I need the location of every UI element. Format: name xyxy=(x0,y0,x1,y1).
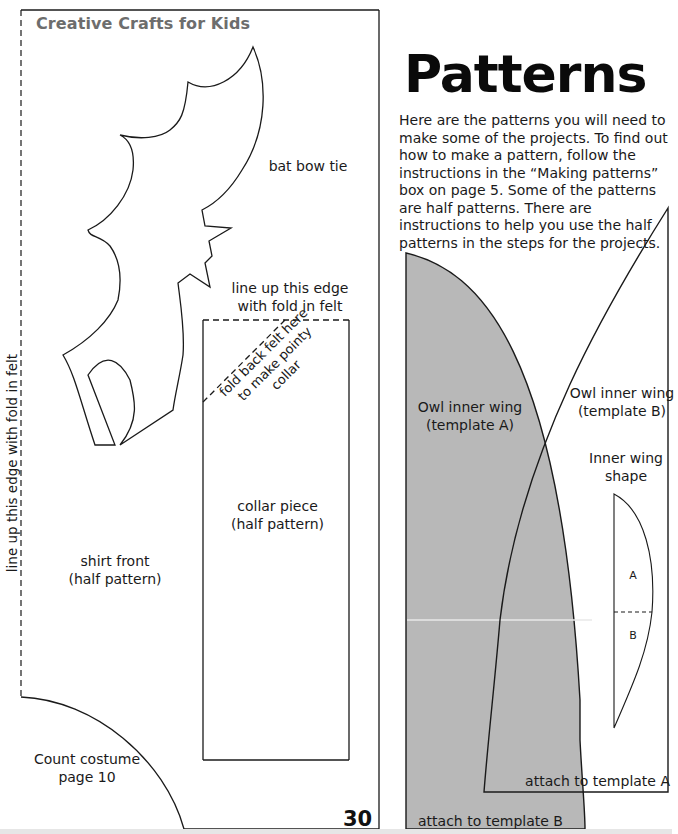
section-b-label: B xyxy=(625,627,641,645)
fold-edge-label: line up this edge with fold in felt xyxy=(4,333,20,593)
inner-wing-line2: shape xyxy=(578,467,674,485)
collar-piece-label: collar piece (half pattern) xyxy=(205,497,350,533)
book-header-title: Creative Crafts for Kids xyxy=(36,14,250,33)
inner-wing-label: Inner wing shape xyxy=(578,449,674,485)
template-b-line2: (template B) xyxy=(562,402,678,420)
collar-edge-label: line up this edge with fold in felt xyxy=(215,279,365,315)
template-a-line2: (template A) xyxy=(400,416,540,434)
inner-wing-shape xyxy=(614,494,653,728)
left-page-border xyxy=(21,10,379,829)
shirt-front-label: shirt front (half pattern) xyxy=(50,552,180,588)
attach-to-template-a-label: attach to template A xyxy=(520,772,670,790)
collar-edge-label-line2: with fold in felt xyxy=(215,297,365,315)
shirt-front-line1: shirt front xyxy=(50,552,180,570)
shirt-front-line2: (half pattern) xyxy=(50,570,180,588)
bat-bow-tie-label: bat bow tie xyxy=(258,157,358,175)
template-a-line1: Owl inner wing xyxy=(400,398,540,416)
count-costume-line1: Count costume xyxy=(22,750,152,768)
count-costume-label: Count costume page 10 xyxy=(22,750,152,786)
collar-edge-label-line1: line up this edge xyxy=(215,279,365,297)
attach-to-template-b-label: attach to template B xyxy=(418,812,578,830)
collar-piece-line2: (half pattern) xyxy=(205,515,350,533)
bottom-edge xyxy=(0,829,672,834)
count-costume-line2: page 10 xyxy=(22,768,152,786)
template-a-label: Owl inner wing (template A) xyxy=(400,398,540,434)
collar-piece-line1: collar piece xyxy=(205,497,350,515)
template-b-line1: Owl inner wing xyxy=(562,384,678,402)
page-title: Patterns xyxy=(404,44,646,104)
owl-template-a-shape xyxy=(406,253,585,829)
template-b-label: Owl inner wing (template B) xyxy=(562,384,678,420)
section-a-label: A xyxy=(625,567,641,585)
inner-wing-line1: Inner wing xyxy=(578,449,674,467)
page-number: 30 xyxy=(343,807,372,831)
intro-paragraph: Here are the patterns you will need to m… xyxy=(399,112,671,252)
